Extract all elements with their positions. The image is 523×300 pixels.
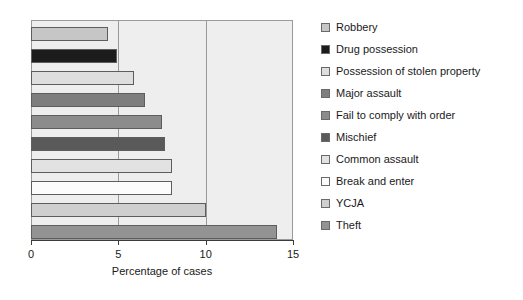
legend-label: Common assault (336, 153, 419, 165)
tick-mark-15 (293, 240, 294, 245)
legend-item-fail-to-comply-with-order[interactable]: Fail to comply with order (321, 104, 519, 126)
bar-mischief (31, 137, 165, 151)
tick-mark-10 (206, 240, 207, 245)
legend-swatch-theft (321, 221, 330, 230)
bar-row (31, 225, 293, 239)
legend-item-common-assault[interactable]: Common assault (321, 148, 519, 170)
bar-robbery (31, 27, 108, 41)
legend-label: Mischief (336, 131, 376, 143)
legend-swatch-common-assault (321, 155, 330, 164)
legend-label: Possession of stolen property (336, 65, 480, 77)
tick-label-15: 15 (278, 248, 308, 261)
tick-mark-5 (118, 240, 119, 245)
legend-label: Drug possession (336, 43, 418, 55)
legend-label: Break and enter (336, 175, 414, 187)
tick-label-10: 10 (191, 248, 221, 261)
legend-item-ycja[interactable]: YCJA (321, 192, 519, 214)
x-axis-line (31, 240, 293, 241)
legend-label: Robbery (336, 21, 378, 33)
bar-ycja (31, 203, 206, 217)
legend-swatch-drug-possession (321, 45, 330, 54)
bar-row (31, 71, 293, 85)
legend-swatch-break-and-enter (321, 177, 330, 186)
legend-item-possession-of-stolen-property[interactable]: Possession of stolen property (321, 60, 519, 82)
legend-swatch-mischief (321, 133, 330, 142)
bar-row (31, 181, 293, 195)
bar-major-assault (31, 93, 145, 107)
legend-label: Theft (336, 219, 361, 231)
bar-fail-to-comply-with-order (31, 115, 162, 129)
bar-chart-figure: 051015 Percentage of cases RobberyDrug p… (0, 0, 523, 300)
bar-common-assault (31, 159, 172, 173)
bar-row (31, 93, 293, 107)
legend-item-drug-possession[interactable]: Drug possession (321, 38, 519, 60)
legend-item-major-assault[interactable]: Major assault (321, 82, 519, 104)
bar-row (31, 137, 293, 151)
legend-swatch-major-assault (321, 89, 330, 98)
legend-label: Fail to comply with order (336, 109, 455, 121)
x-axis-title: Percentage of cases (31, 265, 293, 277)
legend-label: YCJA (336, 197, 364, 209)
bar-row (31, 159, 293, 173)
bar-row (31, 115, 293, 129)
bars-series (31, 20, 293, 240)
legend-label: Major assault (336, 87, 401, 99)
legend-item-theft[interactable]: Theft (321, 214, 519, 236)
legend-item-mischief[interactable]: Mischief (321, 126, 519, 148)
legend: RobberyDrug possessionPossession of stol… (321, 16, 519, 236)
legend-swatch-ycja (321, 199, 330, 208)
tick-label-0: 0 (16, 248, 46, 261)
bar-possession-of-stolen-property (31, 71, 134, 85)
bar-theft (31, 225, 277, 239)
bar-break-and-enter (31, 181, 172, 195)
bar-row (31, 203, 293, 217)
legend-item-robbery[interactable]: Robbery (321, 16, 519, 38)
tick-label-5: 5 (103, 248, 133, 261)
tick-mark-0 (31, 240, 32, 245)
legend-swatch-possession-of-stolen-property (321, 67, 330, 76)
bar-row (31, 49, 293, 63)
bar-row (31, 27, 293, 41)
bar-drug-possession (31, 49, 117, 63)
legend-swatch-robbery (321, 23, 330, 32)
legend-item-break-and-enter[interactable]: Break and enter (321, 170, 519, 192)
legend-swatch-fail-to-comply-with-order (321, 111, 330, 120)
